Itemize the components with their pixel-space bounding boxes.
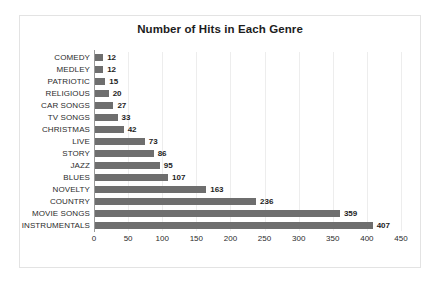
gridline: [401, 52, 402, 231]
bar-value-label: 407: [377, 219, 390, 232]
x-axis-tick: 0: [92, 234, 96, 243]
chart-title: Number of Hits in Each Genre: [20, 23, 420, 35]
bar: [95, 102, 113, 109]
bar: [95, 174, 168, 181]
bar: [95, 66, 103, 73]
bar-row: INSTRUMENTALS407: [94, 219, 401, 232]
x-axis-tick: 100: [156, 234, 169, 243]
x-axis-tick: 250: [258, 234, 271, 243]
x-axis-tick: 200: [224, 234, 237, 243]
x-axis-tick-labels: 050100150200250300350400450: [94, 234, 401, 248]
plot-area: COMEDY12MEDLEY12PATRIOTIC15RELIGIOUS20CA…: [94, 52, 401, 231]
x-axis-tick: 50: [124, 234, 133, 243]
bar: [95, 114, 118, 121]
bar: [95, 78, 105, 85]
x-axis-tick: 450: [394, 234, 407, 243]
x-axis-tick: 300: [292, 234, 305, 243]
bar: [95, 126, 124, 133]
bar: [95, 150, 154, 157]
x-axis-tick: 150: [190, 234, 203, 243]
bar: [95, 138, 145, 145]
bar-series: COMEDY12MEDLEY12PATRIOTIC15RELIGIOUS20CA…: [94, 52, 401, 231]
bar: [95, 54, 103, 61]
x-axis-tick: 400: [360, 234, 373, 243]
bar: [95, 222, 373, 229]
bar: [95, 210, 340, 217]
bar: [95, 186, 206, 193]
category-label: INSTRUMENTALS: [22, 219, 90, 232]
bar: [95, 90, 109, 97]
bar: [95, 198, 256, 205]
x-axis-tick: 350: [326, 234, 339, 243]
bar-chart-figure: Number of Hits in Each Genre COMEDY12MED…: [19, 15, 421, 268]
bar: [95, 162, 160, 169]
